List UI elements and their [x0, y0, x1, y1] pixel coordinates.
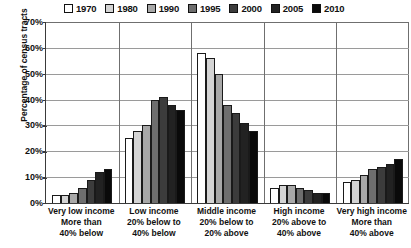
legend-label-1995: 1995	[200, 4, 220, 14]
x-category-line: 40% below	[118, 228, 191, 239]
y-axis-ticks: 70%60%50%40%30%20%10%0%	[0, 22, 43, 203]
bar-2010-group-1[interactable]	[104, 169, 113, 203]
legend-item-2010[interactable]: 2010	[312, 4, 344, 14]
bar-1970-group-1[interactable]	[52, 195, 61, 203]
x-category-label-3: Middle income20% below to20% above	[190, 206, 263, 239]
bar-1990-group-3[interactable]	[215, 74, 224, 203]
bar-1980-group-1[interactable]	[61, 195, 70, 203]
bar-1995-group-2[interactable]	[151, 100, 160, 203]
x-category-label-4: High income20% above to40% above	[263, 206, 336, 239]
x-category-line: 20% above to	[263, 217, 336, 228]
x-category-line: High income	[263, 206, 336, 217]
legend-swatch-2000	[229, 4, 238, 13]
bar-1990-group-5[interactable]	[360, 175, 369, 203]
x-category-label-2: Low income20% below to40% below	[118, 206, 191, 239]
chart-legend: 1970198019901995200020052010	[64, 1, 344, 16]
legend-item-1980[interactable]: 1980	[105, 4, 137, 14]
bar-2010-group-2[interactable]	[176, 110, 185, 203]
bar-1970-group-5[interactable]	[343, 182, 352, 203]
y-tick-label-10: 10%	[1, 173, 43, 182]
legend-label-2000: 2000	[241, 4, 261, 14]
bar-2010-group-5[interactable]	[394, 159, 403, 203]
legend-swatch-2005	[271, 4, 280, 13]
plot-inner	[46, 22, 409, 203]
legend-swatch-1970	[64, 4, 73, 13]
y-tick-label-50: 50%	[1, 69, 43, 78]
legend-swatch-1990	[147, 4, 156, 13]
legend-item-2000[interactable]: 2000	[229, 4, 261, 14]
legend-label-1980: 1980	[117, 4, 137, 14]
bar-1980-group-4[interactable]	[279, 185, 288, 203]
bar-group-2	[119, 22, 192, 203]
legend-item-1970[interactable]: 1970	[64, 4, 96, 14]
x-category-line: More than	[45, 217, 118, 228]
x-axis-category-labels: Very low incomeMore than40% belowLow inc…	[45, 206, 409, 248]
x-category-line: 20% below to	[118, 217, 191, 228]
bar-2010-group-4[interactable]	[322, 193, 331, 203]
bar-2005-group-4[interactable]	[313, 193, 322, 203]
bar-2010-group-3[interactable]	[249, 131, 258, 203]
x-category-line: 40% above	[263, 228, 336, 239]
bar-1995-group-4[interactable]	[296, 188, 305, 204]
y-tick-label-30: 30%	[1, 121, 43, 130]
x-category-label-1: Very low incomeMore than40% below	[45, 206, 118, 239]
x-category-label-5: Very high incomeMore than40% above	[335, 206, 408, 239]
bar-2000-group-2[interactable]	[159, 97, 168, 203]
bar-2005-group-2[interactable]	[168, 105, 177, 203]
bar-group-5	[336, 22, 409, 203]
bar-2000-group-4[interactable]	[304, 190, 313, 203]
y-tick-label-60: 60%	[1, 43, 43, 52]
y-tick-label-0: 0%	[1, 199, 43, 208]
legend-item-1995[interactable]: 1995	[188, 4, 220, 14]
bar-1980-group-5[interactable]	[351, 180, 360, 203]
bar-group-4	[264, 22, 337, 203]
bar-1995-group-3[interactable]	[223, 105, 232, 203]
bar-1995-group-1[interactable]	[78, 188, 87, 204]
y-tick-label-40: 40%	[1, 95, 43, 104]
bar-2000-group-1[interactable]	[87, 180, 96, 203]
bar-2000-group-3[interactable]	[232, 113, 241, 204]
legend-swatch-1980	[105, 4, 114, 13]
legend-swatch-1995	[188, 4, 197, 13]
x-category-line: Low income	[118, 206, 191, 217]
x-category-line: 40% below	[45, 228, 118, 239]
bar-2000-group-5[interactable]	[377, 167, 386, 203]
legend-item-1990[interactable]: 1990	[147, 4, 179, 14]
plot-area	[45, 22, 409, 204]
bar-1970-group-2[interactable]	[125, 138, 134, 203]
x-category-line: 40% above	[335, 228, 408, 239]
legend-swatch-2010	[312, 4, 321, 13]
bar-1990-group-2[interactable]	[142, 125, 151, 203]
y-tick-label-70: 70%	[1, 18, 43, 27]
x-category-line: 20% below to	[190, 217, 263, 228]
bar-2005-group-3[interactable]	[240, 123, 249, 203]
legend-label-2010: 2010	[324, 4, 344, 14]
x-category-line: Middle income	[190, 206, 263, 217]
bar-1990-group-1[interactable]	[69, 193, 78, 203]
bar-1995-group-5[interactable]	[368, 169, 377, 203]
legend-label-1970: 1970	[76, 4, 96, 14]
bar-1970-group-3[interactable]	[197, 53, 206, 203]
bar-1990-group-4[interactable]	[287, 185, 296, 203]
x-category-line: 20% above	[190, 228, 263, 239]
bar-group-3	[191, 22, 264, 203]
bar-1970-group-4[interactable]	[270, 188, 279, 204]
bar-2005-group-1[interactable]	[95, 172, 104, 203]
bar-1980-group-2[interactable]	[133, 131, 142, 203]
legend-label-2005: 2005	[283, 4, 303, 14]
bar-2005-group-5[interactable]	[386, 164, 395, 203]
x-category-line: Very high income	[335, 206, 408, 217]
y-tick-label-20: 20%	[1, 147, 43, 156]
bar-group-1	[46, 22, 119, 203]
legend-label-1990: 1990	[159, 4, 179, 14]
bar-chart: 1970198019901995200020052010 Percentage …	[0, 0, 411, 248]
bar-1980-group-3[interactable]	[206, 58, 215, 203]
x-category-line: Very low income	[45, 206, 118, 217]
x-category-line: More than	[335, 217, 408, 228]
legend-item-2005[interactable]: 2005	[271, 4, 303, 14]
